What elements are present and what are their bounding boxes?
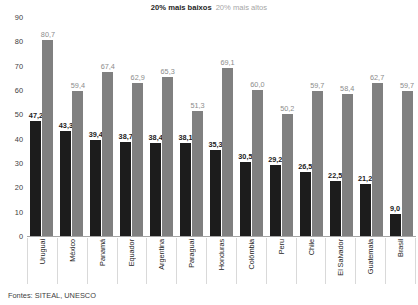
category-axis: UruguaiMéxicoPanamáEquadorArgentinaParag…	[27, 238, 416, 286]
category-label: Panamá	[98, 239, 107, 266]
bar-value-label: 21,2	[358, 174, 372, 183]
bar-value-label: 43,3	[59, 121, 73, 130]
bar-slot: 38,1	[180, 17, 191, 236]
category-tick: Honduras	[207, 238, 237, 284]
bar-group: 22,558,4	[326, 17, 356, 236]
bar-group: 30,560,0	[236, 17, 266, 236]
bar-slot: 43,3	[60, 17, 71, 236]
bar-value-label: 58,4	[340, 84, 354, 93]
category-tick: Peru	[267, 238, 297, 284]
category-tick: El Salvador	[326, 238, 356, 284]
bar-slot: 21,2	[360, 17, 371, 236]
bar-value-label: 50,2	[280, 104, 294, 113]
bar-chart: 20% mais baixos20% mais altos 9080706050…	[0, 0, 418, 305]
bar-value-label: 35,3	[208, 140, 222, 149]
bar-slot: 59,4	[72, 17, 83, 236]
bar-value-label: 29,2	[268, 155, 282, 164]
bar-high	[132, 83, 143, 236]
bar-slot: 47,2	[30, 17, 41, 236]
bar-high	[72, 91, 83, 236]
bar-low	[210, 150, 221, 236]
bar-value-label: 59,7	[310, 81, 324, 90]
bar-high	[102, 72, 113, 236]
bar-low	[300, 172, 311, 236]
bar-high	[342, 94, 353, 236]
bar-slot: 80,7	[42, 17, 53, 236]
bar-group: 29,250,2	[266, 17, 296, 236]
y-axis-tick: 20	[15, 183, 23, 192]
bar-group: 47,280,7	[27, 17, 57, 236]
bar-high	[162, 77, 173, 236]
bar-value-label: 60,0	[250, 80, 264, 89]
bar-value-label: 38,4	[149, 133, 163, 142]
bar-low	[180, 143, 191, 236]
bar-value-label: 22,5	[328, 171, 342, 180]
bar-slot: 67,4	[102, 17, 113, 236]
x-axis-line	[27, 236, 416, 237]
bar-value-label: 30,5	[238, 152, 252, 161]
bar-value-label: 65,3	[161, 67, 175, 76]
bar-value-label: 59,4	[71, 81, 85, 90]
legend-item-highest-quintile: 20% mais altos	[216, 3, 268, 13]
category-tick: Chile	[297, 238, 327, 284]
bar-slot: 50,2	[282, 17, 293, 236]
category-label: Brasil	[396, 239, 405, 257]
bar-value-label: 80,7	[41, 30, 55, 39]
bar-low	[30, 121, 41, 236]
bar-low	[150, 143, 161, 236]
category-label: El Salvador	[336, 239, 345, 276]
bar-value-label: 39,4	[89, 130, 103, 139]
bar-value-label: 67,4	[101, 62, 115, 71]
plot-area: 47,280,743,359,439,467,438,762,938,465,3…	[27, 17, 416, 236]
category-label: Equador	[127, 239, 136, 266]
bar-slot: 35,3	[210, 17, 221, 236]
category-tick: Uruguai	[27, 238, 58, 284]
bar-slot: 29,2	[270, 17, 281, 236]
bar-value-label: 26,5	[298, 162, 312, 171]
bar-group: 26,559,7	[296, 17, 326, 236]
category-tick: Equador	[118, 238, 148, 284]
bar-group: 35,369,1	[207, 17, 237, 236]
bar-slot: 22,5	[330, 17, 341, 236]
bar-group: 39,467,4	[87, 17, 117, 236]
bar-value-label: 69,1	[220, 58, 234, 67]
bar-low	[60, 131, 71, 236]
bar-high	[252, 90, 263, 236]
bar-high	[312, 91, 323, 236]
bar-slot: 51,3	[192, 17, 203, 236]
category-label: Argentina	[157, 239, 166, 270]
source-note: Fontes: SITEAL, UNESCO	[8, 291, 96, 300]
bar-group: 38,465,3	[147, 17, 177, 236]
bar-group: 43,359,4	[57, 17, 87, 236]
bar-value-label: 38,1	[178, 133, 192, 142]
bar-value-label: 51,3	[190, 101, 204, 110]
bar-value-label: 9,0	[390, 204, 400, 213]
bar-slot: 26,5	[300, 17, 311, 236]
bar-slot: 38,7	[120, 17, 131, 236]
bar-slot: 69,1	[222, 17, 233, 236]
category-tick: Brasil	[386, 238, 416, 284]
bar-slot: 39,4	[90, 17, 101, 236]
bar-group: 9,059,7	[386, 17, 416, 236]
bar-value-label: 62,9	[131, 73, 145, 82]
bar-high	[372, 83, 383, 236]
y-axis-tick: 70	[15, 61, 23, 70]
category-tick: Argentina	[147, 238, 177, 284]
bar-slot: 38,4	[150, 17, 161, 236]
bar-low	[90, 140, 101, 236]
bar-slot: 62,9	[132, 17, 143, 236]
bar-group: 38,151,3	[177, 17, 207, 236]
category-tick: Paraguai	[177, 238, 207, 284]
bar-slot: 65,3	[162, 17, 173, 236]
y-axis-tick: 0	[19, 232, 23, 241]
bar-low	[120, 142, 131, 236]
y-axis-tick: 10	[15, 207, 23, 216]
bar-low	[390, 214, 401, 236]
category-tick: México	[58, 238, 88, 284]
bar-slot: 30,5	[240, 17, 251, 236]
bar-high	[42, 40, 53, 236]
bar-high	[222, 68, 233, 236]
bar-high	[282, 114, 293, 236]
category-label: Uruguai	[38, 239, 47, 264]
bar-slot: 62,7	[372, 17, 383, 236]
